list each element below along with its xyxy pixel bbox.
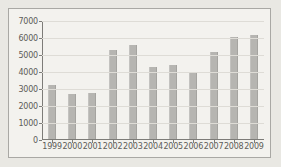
bar: [88, 93, 96, 139]
y-axis-tick: [39, 140, 42, 141]
y-axis-tick-label: 2000: [18, 102, 38, 111]
x-axis-tick-label: 2004: [143, 142, 163, 151]
chart-plot-wrapper: 01000200030004000500060007000 1999200020…: [9, 9, 270, 157]
gridline: [42, 21, 264, 22]
y-axis-tick-label: 7000: [18, 17, 38, 26]
chart-figure: 01000200030004000500060007000 1999200020…: [8, 8, 271, 158]
y-axis-tick-label: 5000: [18, 51, 38, 60]
x-axis-tick-label: 2005: [163, 142, 183, 151]
y-axis-tick: [39, 106, 42, 107]
bar: [210, 52, 218, 139]
plot-area: [42, 21, 264, 140]
y-axis-tick-label: 6000: [18, 34, 38, 43]
x-axis-tick-label: 2009: [244, 142, 264, 151]
x-axis-tick-label: 2002: [103, 142, 123, 151]
y-axis-tick: [39, 55, 42, 56]
x-axis-tick-label: 2000: [62, 142, 82, 151]
gridline: [42, 55, 264, 56]
y-axis-tick: [39, 89, 42, 90]
bar: [109, 50, 117, 139]
y-axis-tick-label: 1000: [18, 119, 38, 128]
y-axis-tick: [39, 123, 42, 124]
bar: [169, 65, 177, 139]
x-axis-tick-label: 2003: [123, 142, 143, 151]
gridline: [42, 72, 264, 73]
x-axis-tick-label: 2008: [224, 142, 244, 151]
x-axis-tick-label: 1999: [42, 142, 62, 151]
y-axis-tick: [39, 21, 42, 22]
y-axis-tick-labels: 01000200030004000500060007000: [9, 9, 42, 159]
bar: [68, 94, 76, 139]
gridline: [42, 89, 264, 90]
y-axis-tick-label: 0: [33, 136, 38, 145]
y-axis-tick-label: 3000: [18, 85, 38, 94]
bar: [48, 85, 56, 139]
bar: [149, 67, 157, 139]
x-axis-tick-label: 2007: [204, 142, 224, 151]
y-axis-tick: [39, 72, 42, 73]
bar: [129, 45, 137, 139]
x-axis-tick-label: 2006: [184, 142, 204, 151]
x-axis-tick-label: 2001: [83, 142, 103, 151]
y-axis-tick-label: 4000: [18, 68, 38, 77]
gridline: [42, 123, 264, 124]
gridline: [42, 106, 264, 107]
gridline: [42, 38, 264, 39]
y-axis-tick: [39, 38, 42, 39]
x-axis-tick-labels: 1999200020012002200320042005200620072008…: [42, 142, 264, 156]
